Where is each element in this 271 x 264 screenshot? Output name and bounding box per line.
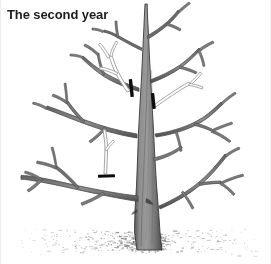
branch-right-upper-twig-b xyxy=(199,41,214,51)
branch-right-mid-twig-d xyxy=(221,92,236,105)
branch-right-lower xyxy=(153,146,182,161)
branch-top-right-twig-a xyxy=(166,23,181,31)
branch-top-left-twig-b xyxy=(92,28,104,33)
removal-shoot-upper-right xyxy=(154,82,190,107)
branch-right-bottom-twig-c xyxy=(220,182,235,195)
removal-shoot-upper-left xyxy=(109,55,130,92)
branch-right-mid-twig-a xyxy=(194,123,212,131)
branch-left-lower xyxy=(21,176,138,202)
removal-shoot-lower-left xyxy=(103,130,108,174)
branch-right-upper xyxy=(150,48,201,83)
branch-left-upper-twig-c xyxy=(70,54,84,59)
branch-left-lower-twig-b xyxy=(37,161,57,169)
branch-top-right-twig-b xyxy=(178,2,190,13)
trunk-group xyxy=(131,4,162,250)
tree-illustration xyxy=(1,0,271,264)
left-branches-group xyxy=(21,21,142,205)
branch-top-left xyxy=(104,30,142,51)
figure-second-year-pruning: The second year xyxy=(0,0,271,264)
branch-left-mid xyxy=(46,106,137,138)
branch-right-bottom-twig-b xyxy=(221,174,244,184)
branch-right-upper-twig-a xyxy=(180,66,197,74)
branch-left-mid-twig-e xyxy=(33,102,47,109)
branch-right-mid-twig-c xyxy=(212,122,233,132)
branch-right-mid-twig-b xyxy=(211,130,231,143)
branch-top-right xyxy=(147,10,180,39)
removal-shoot-upper-left-twig-b xyxy=(98,43,110,58)
removal-shoot-upper-right-twig-b xyxy=(189,83,203,89)
branch-left-lower-twig-c xyxy=(51,147,57,167)
removal-shoot-upper-left-twig-c xyxy=(110,41,118,56)
cut-mark-3 xyxy=(98,174,115,178)
branch-left-upper-twig-b xyxy=(84,44,99,56)
branch-right-bottom-twig-d xyxy=(225,147,240,157)
branch-right-upper-twig-c xyxy=(198,49,205,66)
right-branches-group xyxy=(147,2,244,209)
figure-title: The second year xyxy=(7,7,108,22)
branch-left-lower-twig-e xyxy=(81,192,105,205)
